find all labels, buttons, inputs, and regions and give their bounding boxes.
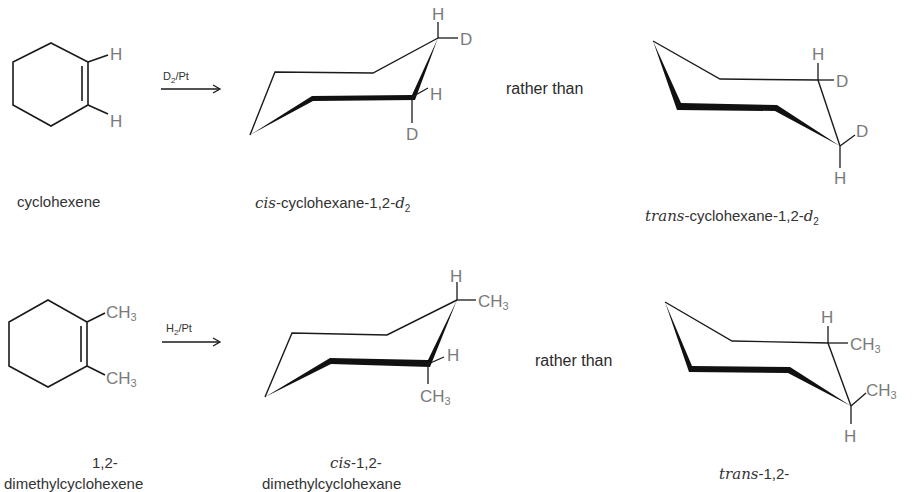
isotope-count: 2 <box>813 216 819 227</box>
reagent-catalyst: /Pt <box>178 322 191 334</box>
cis-chair-bottom <box>265 282 476 397</box>
rather-than-label: rather than <box>535 352 612 370</box>
cyclohexene-structure <box>13 43 108 126</box>
compound-name: -cyclohexane-1,2- <box>685 207 804 224</box>
stereo-prefix: trans <box>645 207 685 225</box>
atom-h: H <box>432 6 444 23</box>
cis-chair-top <box>250 22 458 135</box>
cyclohexene-name: cyclohexene <box>17 193 100 210</box>
stereo-prefix: trans <box>719 465 759 483</box>
group-text: CH <box>866 381 891 400</box>
group-sub: 3 <box>131 311 137 323</box>
atom-h-upper: H <box>110 46 122 63</box>
compound-name: -cyclohexane-1,2- <box>276 194 395 211</box>
trans-chair-top <box>653 41 855 168</box>
reagent-catalyst: /Pt <box>175 70 188 82</box>
atom-h: H <box>834 170 846 187</box>
compound-name: -1,2- <box>759 465 790 482</box>
isotope-count: 2 <box>405 203 411 214</box>
reaction-arrow-2 <box>162 338 220 346</box>
trans-dimethylcyclohexane-name: trans-1,2- <box>719 465 789 483</box>
atom-ch3-upper: CH3 <box>106 304 137 323</box>
dimethylcyclohexene-name-line1: 1,2- <box>92 454 118 471</box>
isotope-symbol: d <box>395 194 405 212</box>
atom-d: D <box>836 73 848 90</box>
atom-d: D <box>406 126 418 143</box>
trans-chair-bottom <box>665 302 866 424</box>
trans-cyclohexane-d2-name: trans-cyclohexane-1,2-d2 <box>645 207 819 227</box>
atom-h: H <box>450 268 462 285</box>
group-text: CH <box>850 335 875 354</box>
reagent-label-1: D2/Pt <box>163 70 189 85</box>
group-text: CH <box>106 303 131 322</box>
compound-name: -1,2- <box>351 454 382 471</box>
atom-d: D <box>460 31 472 48</box>
atom-ch3: CH3 <box>866 382 897 401</box>
group-sub: 3 <box>875 343 881 355</box>
group-text: CH <box>420 387 445 406</box>
reagent-main: H <box>166 322 174 334</box>
reagent-main: D <box>163 70 171 82</box>
atom-h: H <box>821 309 833 326</box>
cis-dimethylcyclohexane-name-line2: dimethylcyclohexane <box>262 475 401 492</box>
atom-h: H <box>812 46 824 63</box>
group-sub: 3 <box>503 300 509 312</box>
atom-h: H <box>844 428 856 445</box>
stereo-prefix: cis <box>255 194 276 212</box>
atom-ch3: CH3 <box>850 336 881 355</box>
group-sub: 3 <box>445 395 451 407</box>
atom-ch3: CH3 <box>478 293 509 312</box>
atom-h: H <box>430 86 442 103</box>
group-text: CH <box>106 369 131 388</box>
atom-d: D <box>856 123 868 140</box>
cis-cyclohexane-d2-name: cis-cyclohexane-1,2-d2 <box>255 194 410 214</box>
atom-h-lower: H <box>110 113 122 130</box>
isotope-symbol: d <box>804 207 814 225</box>
dimethylcyclohexene-structure <box>9 300 105 387</box>
stereo-prefix: cis <box>330 454 351 472</box>
atom-ch3-lower: CH3 <box>106 370 137 389</box>
group-sub: 3 <box>891 389 897 401</box>
group-text: CH <box>478 292 503 311</box>
group-sub: 3 <box>131 377 137 389</box>
cis-dimethylcyclohexane-name: cis-1,2- <box>330 454 382 472</box>
dimethylcyclohexene-name-line2: dimethylcyclohexene <box>4 475 143 492</box>
atom-h: H <box>447 347 459 364</box>
reaction-arrow-1 <box>161 85 220 93</box>
atom-ch3: CH3 <box>420 388 451 407</box>
reagent-label-2: H2/Pt <box>166 322 192 337</box>
rather-than-label: rather than <box>506 80 583 98</box>
